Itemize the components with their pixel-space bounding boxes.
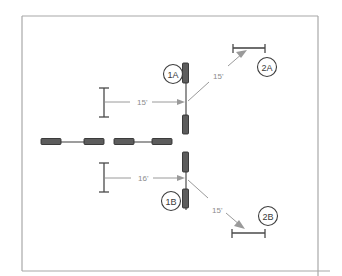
- callout-2b[interactable]: 2B: [259, 207, 278, 226]
- drawing-canvas: 15' 15' 1A 2A: [0, 0, 342, 276]
- callout-1a-label: 1A: [167, 70, 178, 80]
- dimension-label-lower-left: 16': [138, 174, 149, 183]
- callout-1b-label: 1B: [165, 197, 176, 207]
- callout-2b-label: 2B: [262, 212, 273, 222]
- callout-2a[interactable]: 2A: [258, 58, 277, 77]
- dimension-label-lower-diagonal: 15': [212, 206, 223, 215]
- horizontal-member-left: [41, 139, 104, 145]
- dimension-label-upper-diagonal: 15': [213, 72, 224, 81]
- horizontal-member-right: [114, 139, 172, 145]
- dimension-lower-left: 16': [99, 163, 185, 192]
- callout-2a-label: 2A: [261, 63, 272, 73]
- dimension-upper-diagonal: 15': [188, 50, 247, 101]
- dimension-lower-diagonal: 15': [188, 180, 245, 229]
- vertical-member-upper: [183, 63, 189, 134]
- callout-1b[interactable]: 1B: [162, 192, 181, 211]
- tick-bar-upper-right: [233, 44, 265, 53]
- dimension-label-upper-left: 15': [137, 98, 148, 107]
- sheet-border: [22, 16, 330, 276]
- dimension-diagram: 15' 15' 1A 2A: [0, 0, 342, 276]
- callout-1a[interactable]: 1A: [164, 65, 183, 84]
- tick-bar-lower-right: [232, 229, 265, 238]
- vertical-member-lower: [183, 152, 189, 210]
- dimension-upper-left: 15': [99, 88, 185, 117]
